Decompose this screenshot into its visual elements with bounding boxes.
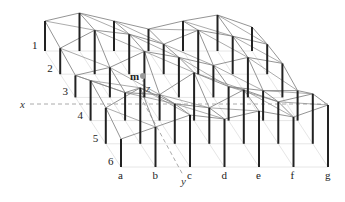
surface-diagonal bbox=[183, 21, 233, 36]
surface-grid-diagram: x y z m 123456 abcdefg bbox=[0, 0, 345, 202]
column-label-a: a bbox=[118, 169, 123, 181]
surface-edge bbox=[263, 91, 278, 102]
surface-edge bbox=[60, 48, 75, 75]
point-m-label: m bbox=[130, 70, 139, 82]
surface-edge bbox=[244, 90, 278, 102]
row-label-5: 5 bbox=[93, 132, 99, 144]
surface-diagonal bbox=[175, 104, 225, 119]
surface-edge bbox=[183, 21, 198, 30]
y-axis-label: y bbox=[180, 175, 186, 187]
surface-edge bbox=[267, 44, 282, 63]
surface-edge bbox=[80, 13, 115, 21]
surface-edge bbox=[278, 94, 313, 102]
surface-diagonal bbox=[114, 21, 164, 44]
surface-diagonal bbox=[149, 29, 199, 30]
surface-edge bbox=[313, 94, 328, 105]
surface-edge bbox=[294, 105, 329, 117]
surface-edge bbox=[45, 21, 60, 48]
column-label-d: d bbox=[222, 169, 228, 181]
surface-edge bbox=[225, 111, 260, 119]
surface-edge bbox=[91, 81, 126, 93]
surface-edge bbox=[60, 30, 94, 48]
column-labels: abcdefg bbox=[118, 169, 331, 181]
surface-edge bbox=[110, 51, 144, 67]
x-axis-label: x bbox=[19, 98, 25, 110]
surface-edge bbox=[164, 30, 199, 44]
surface-edge bbox=[282, 63, 297, 90]
surface-edge bbox=[213, 57, 248, 65]
surface-diagonal bbox=[213, 65, 263, 90]
surface-edge bbox=[149, 21, 184, 29]
row-label-3: 3 bbox=[62, 85, 68, 97]
surface-edge bbox=[144, 51, 179, 57]
column-label-g: g bbox=[325, 169, 331, 181]
surface-diagonal bbox=[218, 15, 268, 44]
surface-diagonal bbox=[209, 108, 259, 111]
column-label-f: f bbox=[291, 169, 295, 181]
point-m-marker bbox=[140, 73, 146, 79]
column-label-c: c bbox=[187, 169, 192, 181]
row-label-6: 6 bbox=[108, 155, 114, 167]
row-label-1: 1 bbox=[32, 39, 38, 51]
surface-edge bbox=[45, 13, 80, 21]
row-label-2: 2 bbox=[47, 62, 53, 74]
surface-edge bbox=[183, 15, 218, 21]
column-label-e: e bbox=[256, 169, 261, 181]
row-label-4: 4 bbox=[78, 109, 84, 121]
row-labels: 123456 bbox=[32, 39, 114, 167]
surface-edge bbox=[121, 127, 156, 139]
surface-edge bbox=[244, 90, 259, 111]
surface-edge bbox=[179, 57, 214, 65]
surface-diagonal bbox=[129, 34, 179, 57]
surface-edge bbox=[218, 15, 233, 36]
surface-edge bbox=[229, 87, 264, 91]
column-label-b: b bbox=[153, 169, 159, 181]
